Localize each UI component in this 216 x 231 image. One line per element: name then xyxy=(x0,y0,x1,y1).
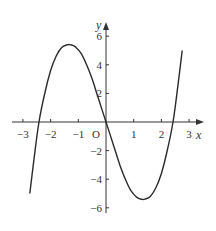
origin-label: O xyxy=(92,128,100,140)
y-tick-label: −6 xyxy=(90,202,102,214)
y-tick-label: −2 xyxy=(90,145,102,157)
y-tick-label: 6 xyxy=(97,30,103,42)
x-tick-label: 1 xyxy=(131,128,137,140)
axes xyxy=(12,22,204,213)
x-axis-arrow-icon xyxy=(196,119,204,125)
x-tick-label: 3 xyxy=(186,128,192,140)
x-tick-label: 2 xyxy=(159,128,165,140)
x-tick-label: −3 xyxy=(17,128,29,140)
y-axis-label: y xyxy=(95,18,102,32)
y-tick-label: −4 xyxy=(90,173,102,185)
y-tick-label: 4 xyxy=(97,59,103,71)
x-tick-label: −2 xyxy=(45,128,57,140)
y-axis-arrow-icon xyxy=(103,22,109,30)
x-axis-label: x xyxy=(195,128,202,142)
x-tick-label: −1 xyxy=(72,128,84,140)
chart: −3−2−1123 642−2−4−6 x y O xyxy=(0,0,216,231)
